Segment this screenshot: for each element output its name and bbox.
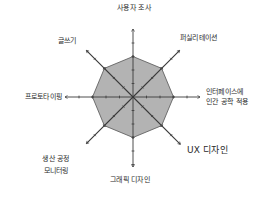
axis-label-production-monitoring-line2: 모니터링	[44, 167, 69, 176]
data-point	[160, 124, 162, 126]
data-point	[91, 96, 93, 98]
axis-label-ux-design: UX 디자인	[187, 146, 228, 155]
data-point	[132, 55, 134, 57]
axis-label-production-monitoring-line1: 생산 공정	[42, 155, 69, 164]
axes-layer	[65, 29, 200, 167]
data-point	[132, 136, 134, 138]
data-point	[103, 124, 105, 126]
axis-label-user-research: 사용자 조사	[117, 4, 150, 13]
data-point	[103, 67, 105, 69]
axis-label-ergonomics-line1: 인터페이스에	[206, 88, 243, 97]
axis-label-ergonomics-line2: 인간 공학 적용	[206, 98, 248, 107]
axis-label-graphic-design: 그래픽 디자인	[110, 176, 150, 185]
axis-label-facilitation: 퍼실리테이션	[180, 34, 217, 43]
data-point	[160, 67, 162, 69]
data-point	[172, 96, 174, 98]
axis-label-prototyping: 프로토타이핑	[25, 93, 62, 102]
axis-label-writing: 글쓰기	[58, 37, 77, 46]
